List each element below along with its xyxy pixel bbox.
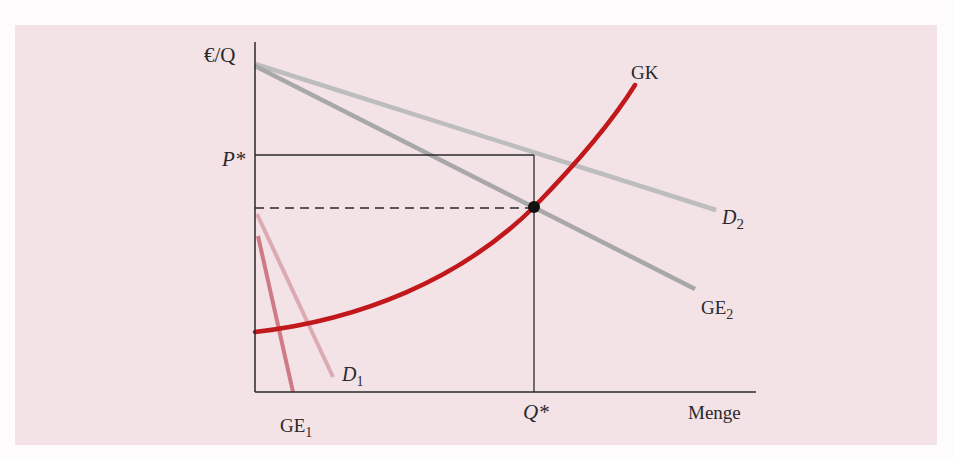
d2-label-sub: 2 bbox=[736, 216, 744, 232]
equilibrium-point bbox=[528, 201, 540, 213]
d2-label-main: D bbox=[721, 206, 737, 228]
ge1-label-sub: 1 bbox=[305, 425, 312, 440]
ge2-label: GE2 bbox=[701, 297, 733, 322]
ge1-line bbox=[258, 236, 293, 392]
ge1-label-main: GE bbox=[280, 415, 305, 436]
gk-label: GK bbox=[631, 62, 659, 83]
d2-label: D2 bbox=[721, 206, 744, 232]
ge2-label-sub: 2 bbox=[726, 307, 733, 322]
d1-label: D1 bbox=[341, 363, 363, 389]
p-star-label: P* bbox=[221, 147, 246, 171]
d1-line bbox=[257, 214, 333, 377]
ge2-label-main: GE bbox=[701, 297, 726, 318]
y-axis-label: €/Q bbox=[204, 43, 236, 67]
d1-label-main: D bbox=[341, 363, 357, 385]
x-axis-label: Menge bbox=[688, 402, 741, 423]
q-star-label: Q* bbox=[523, 400, 549, 424]
ge1-label: GE1 bbox=[280, 415, 312, 440]
d2-line bbox=[255, 64, 716, 210]
d1-label-sub: 1 bbox=[356, 374, 363, 389]
monopoly-price-discrimination-diagram: €/Q P* Q* Menge GK D2 GE2 D1 GE1 bbox=[0, 0, 954, 459]
